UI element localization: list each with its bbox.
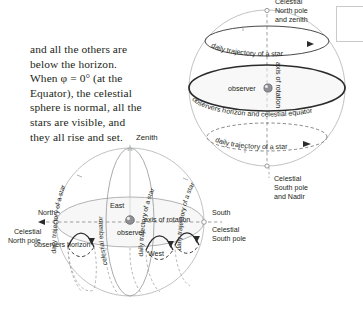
- top-south-pole-marker: [265, 164, 269, 168]
- top-observer-label: observer: [228, 85, 256, 93]
- bottom-trajectory-right-back: [175, 245, 190, 286]
- bottom-sphere-group: Zenith North Celestial North pole South …: [8, 133, 246, 296]
- bottom-zenith-arrow: [127, 144, 132, 151]
- bottom-trajectory-mid-arrow: [167, 241, 174, 248]
- top-lower-trajectory-label: daily trajectory of a star: [214, 136, 288, 151]
- bottom-west-label: West: [148, 250, 164, 258]
- bottom-south-pole-label-line2: South pole: [212, 235, 246, 243]
- top-south-pole-label-line1: Celestial: [274, 175, 302, 183]
- bottom-south-label: South: [212, 209, 231, 217]
- top-axis-of-rotation-label: axis of rotation: [274, 62, 282, 108]
- bottom-axis-west-arrow: [38, 219, 45, 225]
- top-observer-highlight: [265, 85, 268, 88]
- bottom-observer-marker: [126, 216, 135, 225]
- bottom-observer-highlight: [127, 217, 130, 220]
- top-lower-trajectory-arrow: [303, 141, 311, 147]
- bottom-east-label: East: [110, 202, 124, 210]
- top-north-pole-label-line1: Celestial: [275, 0, 303, 6]
- top-sphere-group: Celestial North pole and zenith daily tr…: [189, 0, 345, 201]
- top-north-pole-marker: [265, 8, 269, 12]
- top-upper-trajectory-label: daily trajectory of a star: [210, 41, 284, 58]
- bottom-horizon-label: observers horizon: [34, 241, 90, 249]
- top-north-pole-label-line3: and zenith: [275, 16, 308, 24]
- top-north-pole-label-line2: North pole: [275, 7, 308, 15]
- bottom-north-pole-label-line1: Celestial: [14, 228, 42, 236]
- bottom-trajectory-left-back2: [94, 247, 96, 290]
- top-observer-marker: [264, 84, 272, 92]
- top-south-pole-label-line2: South pole: [274, 184, 308, 192]
- bottom-zenith-label: Zenith: [136, 133, 158, 142]
- top-south-pole-label-line3: and Nadir: [274, 193, 305, 201]
- top-upper-trajectory-arrow: [307, 41, 314, 47]
- bottom-trajectory-right-arrow: [193, 236, 200, 243]
- bottom-trajectory-left-tick: [77, 175, 82, 177]
- bottom-south-pole-marker: [202, 220, 207, 225]
- bottom-trajectory-right-tick: [183, 178, 188, 180]
- bottom-south-pole-label-line1: Celestial: [212, 226, 240, 234]
